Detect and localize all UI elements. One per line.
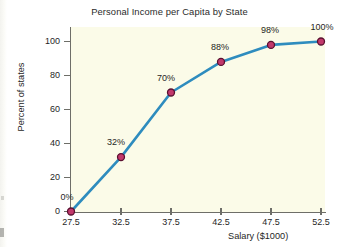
- data-point-label: 100%: [302, 22, 339, 32]
- data-point-marker: [268, 41, 275, 48]
- data-point-marker: [168, 89, 175, 96]
- data-point-label: 0%: [47, 192, 87, 202]
- series-line: [71, 42, 321, 212]
- data-point-label: 88%: [200, 42, 240, 52]
- data-point-marker: [318, 38, 325, 45]
- data-point-marker: [68, 208, 75, 215]
- data-point-marker: [218, 58, 225, 65]
- data-point-label: 70%: [146, 73, 186, 83]
- data-point-label: 32%: [96, 137, 136, 147]
- series-plot: [0, 0, 339, 247]
- data-point-label: 98%: [250, 25, 290, 35]
- series-markers: [68, 38, 325, 215]
- data-point-marker: [118, 154, 125, 161]
